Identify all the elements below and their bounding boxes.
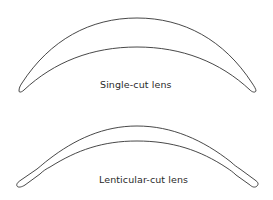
single-cut-lens-label: Single-cut lens bbox=[100, 79, 172, 90]
lens-diagram bbox=[0, 0, 273, 200]
lenticular-cut-lens-label: Lenticular-cut lens bbox=[99, 174, 188, 185]
